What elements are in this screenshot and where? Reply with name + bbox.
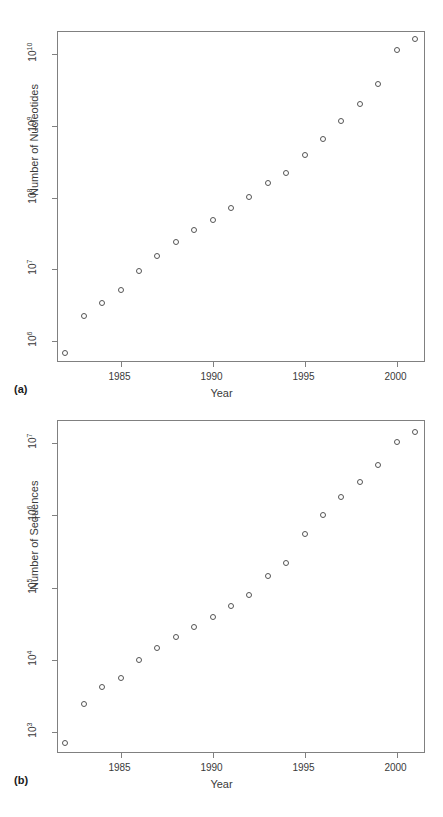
y-axis-tick-label: 103 xyxy=(26,715,38,745)
x-axis-tick-label: 1995 xyxy=(284,371,324,382)
x-axis-tick-label: 2000 xyxy=(376,371,416,382)
y-axis-tick xyxy=(52,341,58,342)
x-axis-tick-label: 1990 xyxy=(192,371,232,382)
y-axis-tick xyxy=(52,198,58,199)
x-axis-tick-label: 2000 xyxy=(376,762,416,773)
panel-label-a: (a) xyxy=(14,383,27,395)
panel-label-b: (b) xyxy=(14,774,28,786)
data-point xyxy=(283,560,289,566)
data-point xyxy=(375,462,381,468)
data-point xyxy=(412,429,418,435)
y-axis-tick-label: 104 xyxy=(26,643,38,673)
data-point xyxy=(228,603,234,609)
data-point xyxy=(191,624,197,630)
y-axis-tick xyxy=(52,126,58,127)
x-axis-tick xyxy=(121,361,122,367)
data-point xyxy=(99,300,105,306)
data-point xyxy=(246,194,252,200)
data-point xyxy=(228,205,234,211)
x-axis-tick-label: 1995 xyxy=(284,762,324,773)
data-point xyxy=(302,531,308,537)
x-axis-tick-label: 1985 xyxy=(100,762,140,773)
data-points-sequences xyxy=(58,421,424,752)
data-point xyxy=(136,268,142,274)
data-point xyxy=(375,81,381,87)
data-point xyxy=(173,634,179,640)
y-axis-tick-label: 106 xyxy=(26,325,38,355)
y-axis-tick xyxy=(52,443,58,444)
x-axis-tick xyxy=(213,752,214,758)
data-point xyxy=(191,227,197,233)
x-axis-tick xyxy=(305,752,306,758)
data-point xyxy=(246,592,252,598)
data-point xyxy=(154,253,160,259)
data-point xyxy=(412,36,418,42)
y-axis-tick xyxy=(52,660,58,661)
data-point xyxy=(338,494,344,500)
x-axis-tick-label: 1985 xyxy=(100,371,140,382)
y-axis-tick xyxy=(52,515,58,516)
data-point xyxy=(265,573,271,579)
y-axis-tick xyxy=(52,732,58,733)
data-point xyxy=(283,170,289,176)
y-axis-title-nucleotides: Number of Nucleotides xyxy=(28,84,40,196)
data-point xyxy=(210,614,216,620)
y-axis-tick xyxy=(52,54,58,55)
x-axis-tick-label: 1990 xyxy=(192,762,232,773)
data-points-nucleotides xyxy=(58,32,424,361)
data-point xyxy=(338,118,344,124)
data-point xyxy=(357,479,363,485)
data-point xyxy=(118,675,124,681)
data-point xyxy=(302,152,308,158)
data-point xyxy=(210,217,216,223)
data-point xyxy=(394,47,400,53)
y-axis-tick xyxy=(52,588,58,589)
data-point xyxy=(265,180,271,186)
data-point xyxy=(62,350,68,356)
data-point xyxy=(118,287,124,293)
y-axis-tick-label: 107 xyxy=(26,253,38,283)
x-axis-title-sequences: Year xyxy=(0,778,443,790)
panel-b: 1031041051061071985199019952000 Number o… xyxy=(0,400,443,817)
data-point xyxy=(173,239,179,245)
scatter-plot-nucleotides xyxy=(57,31,425,362)
x-axis-title-nucleotides: Year xyxy=(0,387,443,399)
y-axis-tick xyxy=(52,269,58,270)
x-axis-tick xyxy=(121,752,122,758)
y-axis-tick-label: 107 xyxy=(26,426,38,456)
x-axis-tick xyxy=(305,361,306,367)
x-axis-tick xyxy=(397,752,398,758)
data-point xyxy=(320,512,326,518)
y-axis-title-sequences: Number of Sequences xyxy=(28,481,40,590)
data-point xyxy=(136,657,142,663)
data-point xyxy=(62,740,68,746)
y-axis-tick-label: 1010 xyxy=(26,37,38,67)
panel-a: 10610710810910101985199019952000 Number … xyxy=(0,0,443,410)
data-point xyxy=(81,701,87,707)
data-point xyxy=(154,645,160,651)
x-axis-tick xyxy=(213,361,214,367)
data-point xyxy=(81,313,87,319)
data-point xyxy=(99,684,105,690)
data-point xyxy=(320,136,326,142)
data-point xyxy=(357,101,363,107)
data-point xyxy=(394,439,400,445)
x-axis-tick xyxy=(397,361,398,367)
scatter-plot-sequences xyxy=(57,420,425,753)
